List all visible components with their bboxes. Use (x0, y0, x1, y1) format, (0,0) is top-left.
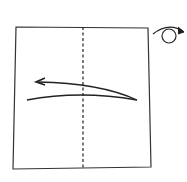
paper-square (13, 27, 151, 169)
origami-diagram (0, 0, 187, 182)
turn-over-icon (153, 27, 184, 43)
